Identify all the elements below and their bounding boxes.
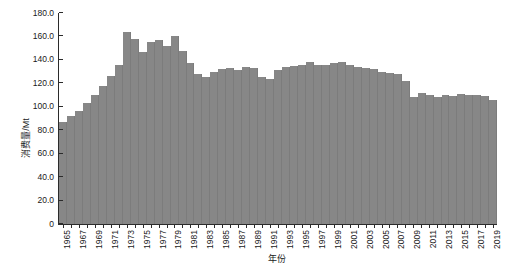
x-tick-mark [493, 224, 494, 228]
y-tick-label: 20.0 [37, 196, 54, 205]
x-axis-title: 年份 [58, 252, 496, 265]
bar [489, 100, 497, 224]
chart-figure: 020.040.060.080.0100.0120.0140.0160.0180… [0, 0, 507, 276]
x-tick-mark [334, 224, 335, 228]
x-tick-label: 1991 [270, 230, 279, 249]
y-tick-label: 40.0 [37, 173, 54, 182]
x-tick-mark [159, 224, 160, 228]
y-tick-mark [59, 176, 63, 177]
bar [107, 76, 115, 224]
x-tick-label: 2019 [493, 230, 502, 249]
bar [354, 67, 362, 224]
x-tick-mark [445, 224, 446, 228]
x-tick-mark [382, 224, 383, 228]
bar [394, 74, 402, 224]
bar [234, 70, 242, 224]
bar [449, 96, 457, 224]
x-tick-mark [167, 224, 168, 228]
x-tick-mark [71, 224, 72, 228]
x-tick-mark [477, 224, 478, 228]
x-tick-mark [437, 224, 438, 228]
bar [123, 32, 131, 224]
x-tick-mark [278, 224, 279, 228]
bar [83, 103, 91, 224]
bar [330, 63, 338, 224]
x-tick-mark [421, 224, 422, 228]
bar [370, 69, 378, 224]
x-tick-mark [389, 224, 390, 228]
bar [481, 96, 489, 224]
x-tick-label: 1999 [334, 230, 343, 249]
bar [434, 97, 442, 224]
x-tick-label: 1979 [174, 230, 183, 249]
y-tick-label: 160.0 [33, 32, 54, 41]
bar [75, 111, 83, 224]
x-tick-mark [151, 224, 152, 228]
x-tick-label: 2009 [413, 230, 422, 249]
x-tick-label: 2007 [397, 230, 406, 249]
x-tick-label: 1971 [111, 230, 120, 249]
bar [274, 70, 282, 224]
x-tick-mark [405, 224, 406, 228]
bar [258, 77, 266, 224]
plot-area: 020.040.060.080.0100.0120.0140.0160.0180… [58, 13, 497, 225]
y-tick-mark [59, 59, 63, 60]
x-tick-label: 1975 [143, 230, 152, 249]
y-tick-label: 140.0 [33, 56, 54, 65]
x-tick-label: 2001 [350, 230, 359, 249]
x-tick-mark [222, 224, 223, 228]
bar [194, 74, 202, 224]
bar [442, 95, 450, 224]
bar [306, 62, 314, 224]
bar [473, 95, 481, 224]
y-tick-label: 80.0 [37, 126, 54, 135]
y-tick-label: 60.0 [37, 149, 54, 158]
x-tick-label: 1995 [302, 230, 311, 249]
y-tick-mark [59, 106, 63, 107]
bar [346, 65, 354, 224]
x-tick-mark [358, 224, 359, 228]
x-tick-mark [230, 224, 231, 228]
x-tick-mark [190, 224, 191, 228]
x-tick-mark [238, 224, 239, 228]
x-tick-mark [326, 224, 327, 228]
x-tick-mark [182, 224, 183, 228]
bar [314, 65, 322, 224]
x-tick-mark [254, 224, 255, 228]
bar [202, 77, 210, 224]
x-tick-mark [294, 224, 295, 228]
x-tick-mark [87, 224, 88, 228]
x-tick-label: 2011 [429, 230, 438, 248]
x-tick-mark [453, 224, 454, 228]
x-tick-label: 2003 [366, 230, 375, 249]
x-tick-label: 2005 [382, 230, 391, 249]
y-tick-mark [59, 35, 63, 36]
x-tick-mark [286, 224, 287, 228]
x-tick-mark [119, 224, 120, 228]
bar [115, 65, 123, 224]
bar [426, 95, 434, 224]
y-tick-mark [59, 12, 63, 13]
bar [457, 94, 465, 224]
bar [187, 63, 195, 224]
x-tick-label: 1973 [127, 230, 136, 249]
x-tick-mark [310, 224, 311, 228]
y-tick-mark [59, 82, 63, 83]
x-tick-mark [214, 224, 215, 228]
x-tick-mark [262, 224, 263, 228]
bar [147, 42, 155, 224]
bar [362, 68, 370, 224]
x-tick-label: 1985 [222, 230, 231, 249]
bar [242, 67, 250, 224]
bar [210, 72, 218, 224]
x-tick-label: 1987 [238, 230, 247, 249]
x-tick-mark [366, 224, 367, 228]
x-tick-mark [318, 224, 319, 228]
x-tick-mark [342, 224, 343, 228]
x-tick-mark [174, 224, 175, 228]
bar [322, 65, 330, 224]
bar [131, 39, 139, 224]
bar [139, 52, 147, 224]
x-tick-label: 1983 [206, 230, 215, 249]
bar [338, 62, 346, 224]
